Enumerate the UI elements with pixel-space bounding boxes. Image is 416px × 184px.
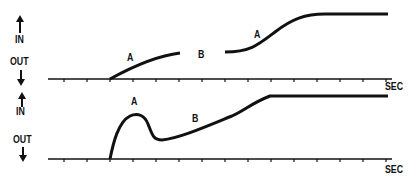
top-panel: IN OUT A B A SEC	[0, 0, 416, 92]
curve-label-a2: A	[254, 28, 260, 40]
down-arrow-icon	[19, 147, 27, 162]
curve-label-a: A	[131, 95, 137, 107]
curve-overshoot	[110, 96, 388, 159]
curve-label-b: B	[198, 48, 204, 60]
x-label-sec: SEC	[385, 163, 403, 175]
down-arrow-icon	[17, 70, 25, 86]
curve-segment-a2	[225, 14, 388, 52]
curve-label-a1: A	[127, 51, 133, 63]
top-graph	[0, 0, 416, 92]
curve-segment-a1	[110, 53, 180, 79]
y-label-in: IN	[16, 105, 25, 117]
bottom-panel: IN OUT A B SEC	[0, 92, 416, 184]
y-label-in: IN	[15, 33, 24, 45]
y-label-out: OUT	[13, 133, 32, 145]
curve-label-b: B	[192, 112, 198, 124]
x-label-sec: SEC	[385, 80, 403, 92]
up-arrow-icon	[16, 15, 24, 33]
bottom-graph	[0, 92, 416, 184]
y-label-out: OUT	[10, 55, 29, 67]
